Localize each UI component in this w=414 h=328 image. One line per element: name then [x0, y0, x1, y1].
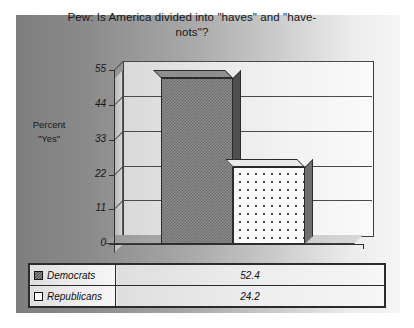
y-tick-22 [109, 175, 114, 176]
x-axis-line [114, 244, 364, 245]
bar-democrats-top-face [153, 70, 233, 78]
legend-value-republicans: 24.2 [116, 286, 385, 307]
legend-key-democrats: Democrats [30, 265, 116, 286]
legend-key-republicans: Republicans [30, 286, 116, 307]
y-tick-55 [109, 70, 114, 71]
bar-democrats[interactable] [161, 78, 233, 244]
y-tick-label-44: 44 [76, 98, 106, 109]
legend-table: Democrats 52.4 Republicans 24.2 [28, 263, 386, 308]
table-row[interactable]: Democrats 52.4 [30, 265, 385, 286]
chart-screenshot: Pew: Is America divided into "haves" and… [0, 0, 414, 328]
y-tick-label-11: 11 [76, 202, 106, 213]
x-axis-end-tick [363, 244, 364, 249]
bar-democrats-front-face [161, 78, 233, 244]
legend-label-republicans: Republicans [47, 291, 102, 302]
y-tick-44 [109, 105, 114, 106]
y-tick-label-55: 55 [76, 63, 106, 74]
legend-value-democrats: 52.4 [116, 265, 385, 286]
legend-label-democrats: Democrats [47, 270, 95, 281]
table-row[interactable]: Republicans 24.2 [30, 286, 385, 307]
gridline-55 [123, 61, 372, 62]
y-tick-label-33: 33 [76, 133, 106, 144]
y-tick-label-22: 22 [76, 168, 106, 179]
bar-republicans[interactable] [233, 167, 305, 244]
republicans-swatch-icon [34, 292, 43, 301]
bar-republicans-side-face [305, 159, 313, 244]
y-tick-33 [109, 140, 114, 141]
bar-republicans-front-face [233, 167, 305, 244]
y-tick-11 [109, 209, 114, 210]
y-tick-0 [109, 244, 114, 245]
bar-republicans-top-face [225, 159, 305, 167]
y-axis-line [114, 70, 115, 245]
democrats-swatch-icon [34, 271, 43, 280]
y-tick-label-0: 0 [76, 237, 106, 248]
